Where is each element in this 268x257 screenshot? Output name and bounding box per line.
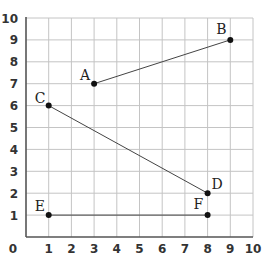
y-tick-label: 7	[10, 77, 18, 91]
y-tick-label: 4	[10, 143, 18, 157]
point-marker	[46, 212, 52, 218]
x-tick-label: 3	[90, 242, 98, 256]
x-tick-label: 5	[135, 242, 143, 256]
point-label: B	[216, 21, 226, 37]
x-tick-label: 4	[113, 242, 121, 256]
y-tick-label: 2	[10, 187, 18, 201]
x-tick-label: 8	[203, 242, 211, 256]
point-marker	[91, 81, 97, 87]
x-tick-label: 7	[181, 242, 189, 256]
point-label: C	[35, 90, 46, 106]
x-tick-label: 6	[158, 242, 166, 256]
y-tick-label: 6	[10, 99, 18, 113]
x-tick-label: 2	[67, 242, 75, 256]
tick-labels: 01234567891012345678910	[1, 12, 261, 257]
x-tick-label: 9	[226, 242, 234, 256]
point-marker	[205, 190, 211, 196]
y-tick-label: 9	[10, 33, 18, 47]
y-tick-label: 1	[10, 209, 18, 223]
grid-lines	[26, 18, 253, 237]
y-tick-label: 10	[1, 12, 18, 26]
y-tick-label: 8	[10, 55, 18, 69]
point-label: A	[79, 67, 91, 83]
y-tick-label: 5	[10, 121, 18, 135]
point-marker	[227, 37, 233, 43]
x-tick-label: 1	[45, 242, 53, 256]
x-tick-label: 10	[245, 242, 262, 256]
point-label: E	[35, 198, 45, 214]
point-marker	[46, 103, 52, 109]
y-tick-label: 3	[10, 165, 18, 179]
point-label: D	[212, 176, 223, 192]
point-label: F	[194, 196, 204, 212]
x-tick-label: 0	[9, 242, 17, 256]
data-points: ABCDEF	[35, 21, 234, 218]
point-marker	[205, 212, 211, 218]
coordinate-grid-chart: 01234567891012345678910 ABCDEF	[0, 0, 268, 257]
